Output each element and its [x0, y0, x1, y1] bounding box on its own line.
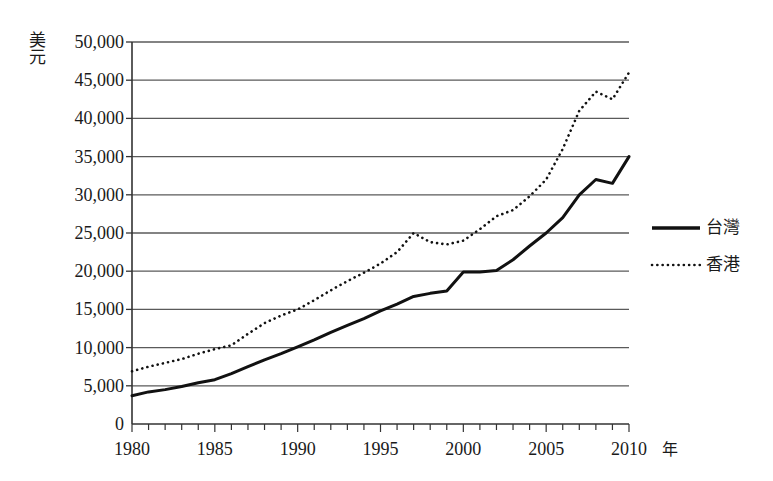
- legend-label-2: 香港: [706, 256, 740, 273]
- series-line-2: [132, 73, 629, 372]
- gridlines: [132, 42, 629, 386]
- y-axis-ticks: [126, 42, 132, 386]
- legend-label-1: 台灣: [706, 219, 740, 236]
- series-line-1: [132, 157, 629, 396]
- chart-figure: 美元 05,00010,00015,00020,00025,00030,0003…: [0, 0, 773, 481]
- legend-marks: [652, 228, 700, 265]
- plot-area: [0, 0, 773, 481]
- x-axis-ticks: [132, 424, 629, 432]
